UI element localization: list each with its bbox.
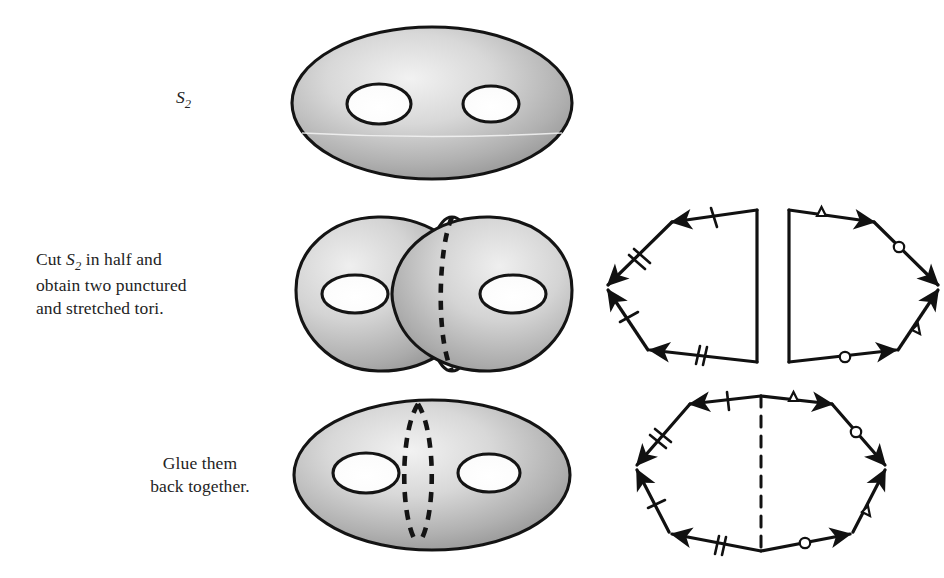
octagon-lower-right-edge xyxy=(853,470,885,532)
right-half-polygon xyxy=(789,207,938,362)
caption-row-2: Cut S2 in half and obtain two punctured … xyxy=(36,248,266,320)
octagon-top-right-triangle-marker xyxy=(789,392,798,401)
glued-octagon-polygon xyxy=(637,392,885,555)
caption-row-3: Glue them back together. xyxy=(120,452,280,498)
octagon-top-left-edge xyxy=(690,396,761,404)
octagon-bottom-left-tick-2 xyxy=(722,537,726,555)
genus-2-surface-row-3 xyxy=(294,400,570,550)
punctured-torus-right xyxy=(392,217,572,371)
right-polygon-upper-right-circle-marker xyxy=(894,242,904,252)
caption-row-2-line-3: and stretched tori. xyxy=(36,297,266,320)
symbol-S: S xyxy=(176,87,185,107)
octagon-bottom-right-circle-marker xyxy=(800,538,810,548)
caption-row-3-line-2: back together. xyxy=(120,475,280,498)
punctured-torus-right-hole xyxy=(480,275,546,313)
caption-row-1: S2 xyxy=(176,86,296,112)
punctured-torus-left-hole xyxy=(322,275,388,313)
left-half-polygon xyxy=(608,208,757,365)
caption-row-2-symbol-S: S xyxy=(66,249,75,269)
genus-2-hole-left xyxy=(347,84,411,124)
symbol-S-subscript: 2 xyxy=(185,97,191,111)
right-polygon-top-triangle-marker xyxy=(817,207,826,216)
right-polygon-lower-right-edge xyxy=(898,290,938,350)
right-polygon-bottom-circle-marker xyxy=(840,352,850,362)
caption-row-2-line-2: obtain two punctured xyxy=(36,274,266,297)
octagon-top-left-tick-1 xyxy=(727,392,729,410)
reglued-hole-right xyxy=(458,454,520,492)
genus-2-surface-row-1 xyxy=(292,27,572,179)
right-polygon-top-edge xyxy=(789,210,874,222)
caption-row-3-line-1: Glue them xyxy=(120,452,280,475)
left-polygon-lower-left-edge xyxy=(608,290,648,350)
reglued-hole-left xyxy=(333,453,399,493)
octagon-bottom-left-tick-1 xyxy=(715,536,719,554)
genus-2-hole-right xyxy=(463,86,519,122)
caption-row-2-line-1: Cut S2 in half and xyxy=(36,248,266,274)
caption-row-1-line: S2 xyxy=(176,86,296,112)
genus-2-outer-boundary xyxy=(292,27,572,179)
caption-row-2-line-1-prefix: Cut xyxy=(36,249,66,269)
octagon-upper-right-circle-marker xyxy=(851,427,861,437)
caption-row-2-line-1-suffix: in half and xyxy=(81,249,161,269)
right-polygon-upper-right-edge xyxy=(874,222,938,285)
